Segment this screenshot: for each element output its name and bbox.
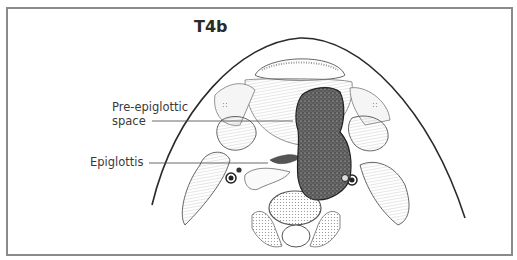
- larynx-cross-section-illustration: [0, 0, 517, 260]
- epiglottis-dark: [270, 155, 300, 164]
- epiglottis-fold: [245, 168, 290, 189]
- left-jugular: [236, 167, 241, 172]
- right-scm-muscle: [360, 162, 409, 225]
- left-gland: [217, 116, 256, 150]
- hyoid-arch: [255, 59, 345, 80]
- tumor-mass: [296, 88, 351, 200]
- spinal-canal: [282, 225, 310, 247]
